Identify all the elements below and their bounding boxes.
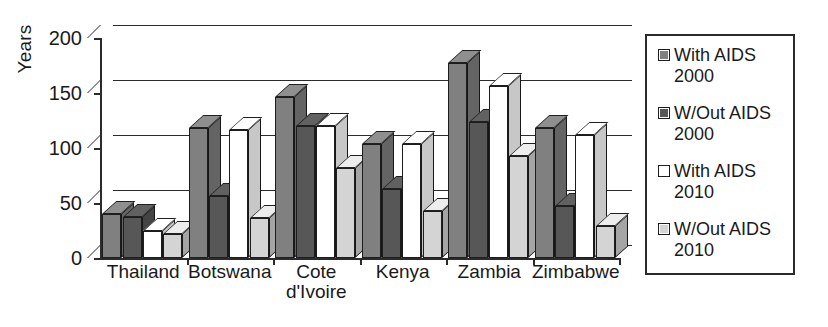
gridline-200 [113,25,632,26]
bar-front-face [316,126,335,258]
bar-front-face [143,231,162,259]
bar [509,156,528,258]
bar-front-face [362,144,381,258]
y-tick-mark-200 [94,38,101,40]
bar [229,130,248,258]
bar [209,196,228,258]
y-tick-label-200: 200 [49,27,82,50]
bar [102,214,121,258]
legend-item-label: W/Out AIDS 2000 [674,103,771,145]
legend-item-2[interactable]: With AIDS 2010 [658,161,756,203]
legend-item-0[interactable]: With AIDS 2000 [658,45,756,87]
y-tick-label-100: 100 [49,137,82,160]
bar-front-face [123,217,142,258]
bar [163,234,182,258]
y-tick-mark-100 [94,148,101,150]
bar [296,126,315,258]
bar [316,126,335,258]
y-tick-mark-50 [94,203,101,205]
bar-front-face [102,214,121,258]
bar [402,144,421,258]
gridline-riser-0 [87,245,101,258]
bar-front-face [336,168,355,258]
bar [336,168,355,258]
bar-front-face [469,122,488,258]
bar-front-face [209,196,228,258]
bar [489,86,508,258]
bar [250,218,269,258]
bar-front-face [555,206,574,258]
gridline-riser-150 [87,80,101,93]
bar [575,135,594,258]
y-tick-mark-0 [94,258,101,260]
gridline-riser-100 [87,135,101,148]
bar-front-face [275,97,294,258]
bar-front-face [596,226,615,258]
legend-swatch-with-aids-2010 [658,165,670,177]
bar-front-face [509,156,528,258]
bar-front-face [250,218,269,258]
legend-item-3[interactable]: W/Out AIDS 2010 [658,219,771,261]
legend-item-label: W/Out AIDS 2010 [674,219,771,261]
plot-area [100,25,632,258]
legend-swatch-without-aids-2010 [658,223,670,235]
bar [189,128,208,258]
gridline-riser-50 [87,190,101,203]
y-axis-tick-labels: 050100150200 [24,0,82,327]
x-axis-label-5: Zimbabwe [523,262,630,282]
y-tick-label-0: 0 [71,247,82,270]
legend-swatch-with-aids-2000 [658,49,670,61]
chart-legend: With AIDS 2000W/Out AIDS 2000With AIDS 2… [645,34,795,275]
bar-front-face [189,128,208,258]
bar-front-face [229,130,248,258]
bar [382,189,401,258]
bar-front-face [448,63,467,258]
bar [275,97,294,258]
bar [143,231,162,259]
bar [555,206,574,258]
bar-front-face [423,211,442,258]
bar-front-face [402,144,421,258]
legend-item-1[interactable]: W/Out AIDS 2000 [658,103,771,145]
bar [596,226,615,258]
legend-swatch-without-aids-2000 [658,107,670,119]
bar [469,122,488,258]
bar-front-face [382,189,401,258]
gridline-150 [113,80,632,81]
bar-front-face [535,128,554,258]
bar-front-face [489,86,508,258]
bar-front-face [296,126,315,258]
legend-item-label: With AIDS 2010 [674,161,756,203]
bar [448,63,467,258]
bar [123,217,142,258]
chart-figure: Years 050100150200 ThailandBotswanaCote … [0,0,828,327]
bar [423,211,442,258]
y-tick-mark-150 [94,93,101,95]
legend-item-label: With AIDS 2000 [674,45,756,87]
bar [535,128,554,258]
y-tick-label-150: 150 [49,82,82,105]
gridline-riser-200 [87,25,101,38]
bar-front-face [575,135,594,258]
bar [362,144,381,258]
y-tick-label-50: 50 [60,192,82,215]
bar-front-face [163,234,182,258]
